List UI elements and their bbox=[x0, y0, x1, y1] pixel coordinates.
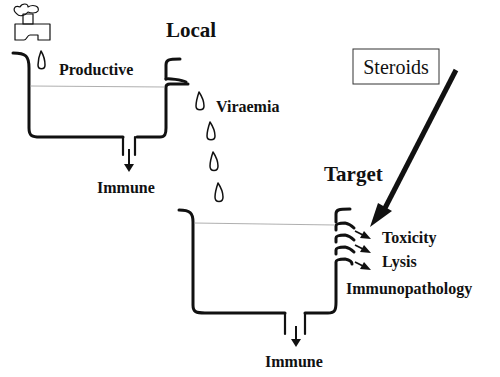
immunopathology-label: Immunopathology bbox=[346, 280, 472, 298]
target-vessel bbox=[179, 209, 371, 347]
steroids-arrow-icon bbox=[370, 70, 456, 227]
productive-label: Productive bbox=[59, 61, 133, 78]
local-target-reservoir-diagram: Steroids Local Productive Viraemia Immun… bbox=[0, 0, 500, 377]
local-label: Local bbox=[166, 18, 216, 42]
immune-top-label: Immune bbox=[97, 179, 155, 196]
viraemia-label: Viraemia bbox=[216, 98, 279, 115]
drain-arrow-icon bbox=[291, 326, 301, 347]
local-waterline bbox=[30, 86, 165, 87]
droplet-icon bbox=[196, 92, 204, 110]
drain-arrow-icon bbox=[124, 149, 134, 172]
droplet-icon bbox=[215, 183, 223, 202]
target-label: Target bbox=[324, 162, 383, 186]
toxicity-label: Toxicity bbox=[382, 229, 437, 247]
tap-icon bbox=[14, 4, 50, 40]
immune-bottom-label: Immune bbox=[265, 353, 323, 370]
steroids-box: Steroids bbox=[353, 49, 439, 84]
droplet-icon bbox=[207, 122, 215, 140]
outflow-arrows bbox=[355, 231, 371, 270]
steroids-label: Steroids bbox=[363, 56, 429, 78]
droplet-icon bbox=[210, 152, 218, 171]
lysis-label: Lysis bbox=[382, 253, 417, 271]
target-waterline bbox=[194, 223, 335, 225]
droplet-icon bbox=[38, 51, 45, 69]
